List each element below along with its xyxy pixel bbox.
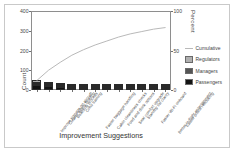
y-tick-mark-right xyxy=(171,11,173,12)
pareto-chart-figure: Count Percent 0100200300400 050100 Impro… xyxy=(0,0,234,152)
y-tick-label-left: 300 xyxy=(20,28,29,34)
legend-item: Cumulative xyxy=(185,44,233,52)
legend-color-swatch xyxy=(185,79,193,86)
legend-line-swatch xyxy=(185,45,193,52)
legend-item: Regulators xyxy=(185,55,233,63)
legend-label: Managers xyxy=(196,68,218,74)
x-axis-tick-labels: Improve signage on aircraftClearer safet… xyxy=(31,91,171,131)
y-axis-title-right-text: Percent xyxy=(190,10,197,33)
y-tick-mark-right xyxy=(171,51,173,52)
y-tick-label-right: 50 xyxy=(174,48,180,54)
legend-label: Regulators xyxy=(196,56,220,62)
y-tick-label-left: 200 xyxy=(20,48,29,54)
legend-item: Managers xyxy=(185,67,233,75)
plot-area: 0100200300400 050100 xyxy=(31,11,171,90)
cumulative-line xyxy=(31,11,171,90)
legend: CumulativeRegulatorsManagersPassengers xyxy=(185,44,233,90)
legend-color-swatch xyxy=(185,68,193,75)
x-axis-title: Improvement Suggestions xyxy=(31,131,171,140)
legend-color-swatch xyxy=(185,56,193,63)
y-tick-label-right: 0 xyxy=(174,87,177,93)
y-tick-label-right: 100 xyxy=(174,8,183,14)
y-tick-label-left: 100 xyxy=(20,67,29,73)
y-tick-label-left: 400 xyxy=(20,8,29,14)
legend-item: Passengers xyxy=(185,78,233,86)
y-tick-mark-right xyxy=(171,90,173,91)
legend-label: Cumulative xyxy=(196,45,221,51)
legend-label: Passengers xyxy=(196,79,222,85)
